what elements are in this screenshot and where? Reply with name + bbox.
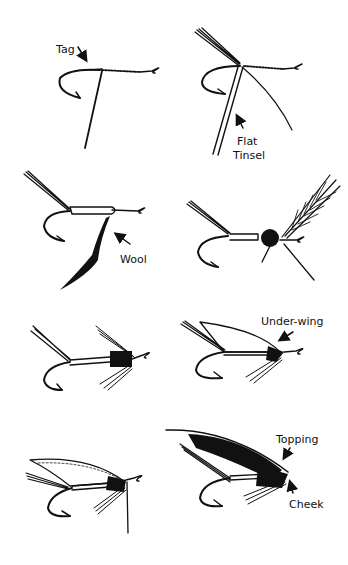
hook-eye — [140, 68, 159, 73]
tail-fibres — [195, 28, 240, 65]
hackle-fibres-bottom — [100, 365, 132, 390]
fly-tying-diagram: Tag Flat Tinsel Wool — [0, 0, 348, 565]
hook-eye — [284, 349, 303, 354]
hook-barb — [214, 372, 222, 378]
tag-wraps — [102, 70, 140, 72]
hook — [200, 478, 230, 506]
panel-6-under-wing: Under-wing — [181, 315, 324, 383]
arrow-tag — [78, 47, 86, 60]
hook-eye — [283, 64, 302, 69]
panel-3-wool: Wool — [24, 171, 147, 290]
hook-eye — [126, 476, 142, 481]
thread — [242, 67, 292, 130]
label-tag: Tag — [55, 43, 75, 56]
hook-barb — [62, 511, 70, 516]
arrow-topping — [284, 448, 290, 458]
diagram-canvas: Tag Flat Tinsel Wool — [0, 0, 348, 565]
body — [224, 352, 270, 355]
hackle-fibres — [292, 182, 336, 230]
hook — [48, 488, 72, 516]
thread — [262, 244, 314, 280]
thread — [127, 482, 128, 533]
panel-4-hackle — [187, 175, 340, 280]
hook — [198, 236, 228, 267]
hook — [196, 352, 224, 378]
hackle-wraps — [261, 229, 279, 247]
hook — [44, 362, 70, 390]
hook-barb — [214, 500, 222, 506]
label-flat: Flat — [237, 135, 258, 148]
panel-8-topping-cheek: Topping Cheek — [166, 430, 324, 511]
label-cheek: Cheek — [289, 498, 324, 511]
body — [72, 483, 110, 490]
tinsel-body — [70, 207, 115, 214]
wool-body — [60, 216, 110, 290]
panel-5-throat-hackle — [31, 326, 149, 390]
panel-2-flat-tinsel: Flat Tinsel — [195, 28, 302, 162]
tail-fibres — [26, 473, 68, 489]
arrow-flat-tinsel — [237, 116, 243, 128]
hook-eye — [112, 208, 145, 213]
hook-eye — [132, 353, 149, 359]
arrow-cheek — [290, 482, 293, 493]
tail-fibres — [31, 326, 70, 361]
arrow-wool — [116, 234, 130, 244]
thread — [85, 71, 102, 148]
label-topping: Topping — [275, 433, 319, 446]
panel-1-tag: Tag — [55, 43, 159, 148]
label-wool: Wool — [120, 253, 147, 266]
panel-7-main-wing — [26, 459, 142, 533]
body — [70, 357, 110, 365]
tail-fibres — [187, 201, 230, 234]
tail-fibres — [24, 171, 70, 210]
label-tinsel: Tinsel — [232, 149, 265, 162]
tag-wraps — [244, 66, 283, 69]
label-under-wing: Under-wing — [261, 315, 324, 328]
body — [230, 234, 258, 240]
hook-eye — [280, 237, 304, 242]
arrow-under-wing — [280, 332, 293, 340]
hackle-feather-stem — [282, 175, 340, 238]
hook — [59, 69, 102, 98]
